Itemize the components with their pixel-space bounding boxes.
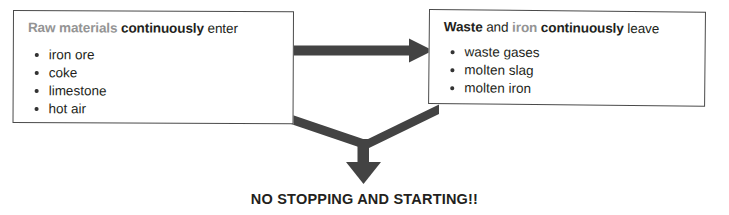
list-item: iron ore	[33, 46, 107, 64]
waste-heading-regular-1: and	[486, 20, 508, 35]
horizontal-flow-arrow	[290, 39, 433, 63]
diagram-caption: NO STOPPING AND STARTING!!	[0, 191, 729, 207]
bullet-icon	[35, 89, 39, 93]
list-item: coke	[33, 64, 107, 82]
list-item-label: hot air	[49, 101, 87, 116]
bullet-icon	[450, 68, 454, 72]
list-item-label: coke	[49, 65, 78, 80]
list-item-label: limestone	[49, 83, 107, 98]
raw-materials-heading-grey: Raw materials	[28, 20, 118, 35]
list-item: hot air	[33, 100, 107, 118]
bullet-icon	[451, 50, 455, 54]
raw-materials-heading: Raw materials continuously enter	[28, 20, 238, 36]
raw-materials-box: Raw materials continuously enter iron or…	[13, 10, 294, 124]
bullet-icon	[450, 86, 454, 90]
bullet-icon	[35, 71, 39, 75]
waste-heading-regular-2: leave	[627, 21, 659, 36]
waste-heading-bold-2: continuously	[541, 20, 624, 36]
list-item: waste gases	[448, 43, 539, 62]
raw-materials-heading-bold: continuously	[121, 20, 204, 35]
raw-materials-list: iron ore coke limestone hot air	[33, 46, 107, 118]
waste-and-iron-box: Waste and iron continuously leave waste …	[428, 9, 706, 107]
diagram-canvas: Raw materials continuously enter iron or…	[0, 0, 729, 215]
bullet-icon	[35, 107, 39, 111]
converging-down-arrow	[288, 105, 439, 185]
waste-heading-bold-1: Waste	[444, 19, 483, 34]
list-item-label: molten iron	[464, 80, 531, 96]
list-item: molten slag	[448, 61, 539, 80]
waste-and-iron-list: waste gases molten slag molten iron	[448, 43, 540, 98]
waste-and-iron-heading: Waste and iron continuously leave	[444, 19, 659, 36]
raw-materials-heading-regular: enter	[208, 21, 238, 36]
list-item-label: iron ore	[49, 47, 95, 62]
waste-heading-grey: iron	[512, 20, 537, 35]
bullet-icon	[35, 53, 39, 57]
list-item: molten iron	[448, 79, 539, 98]
list-item-label: molten slag	[464, 62, 533, 78]
list-item: limestone	[33, 82, 107, 100]
list-item-label: waste gases	[465, 44, 540, 60]
